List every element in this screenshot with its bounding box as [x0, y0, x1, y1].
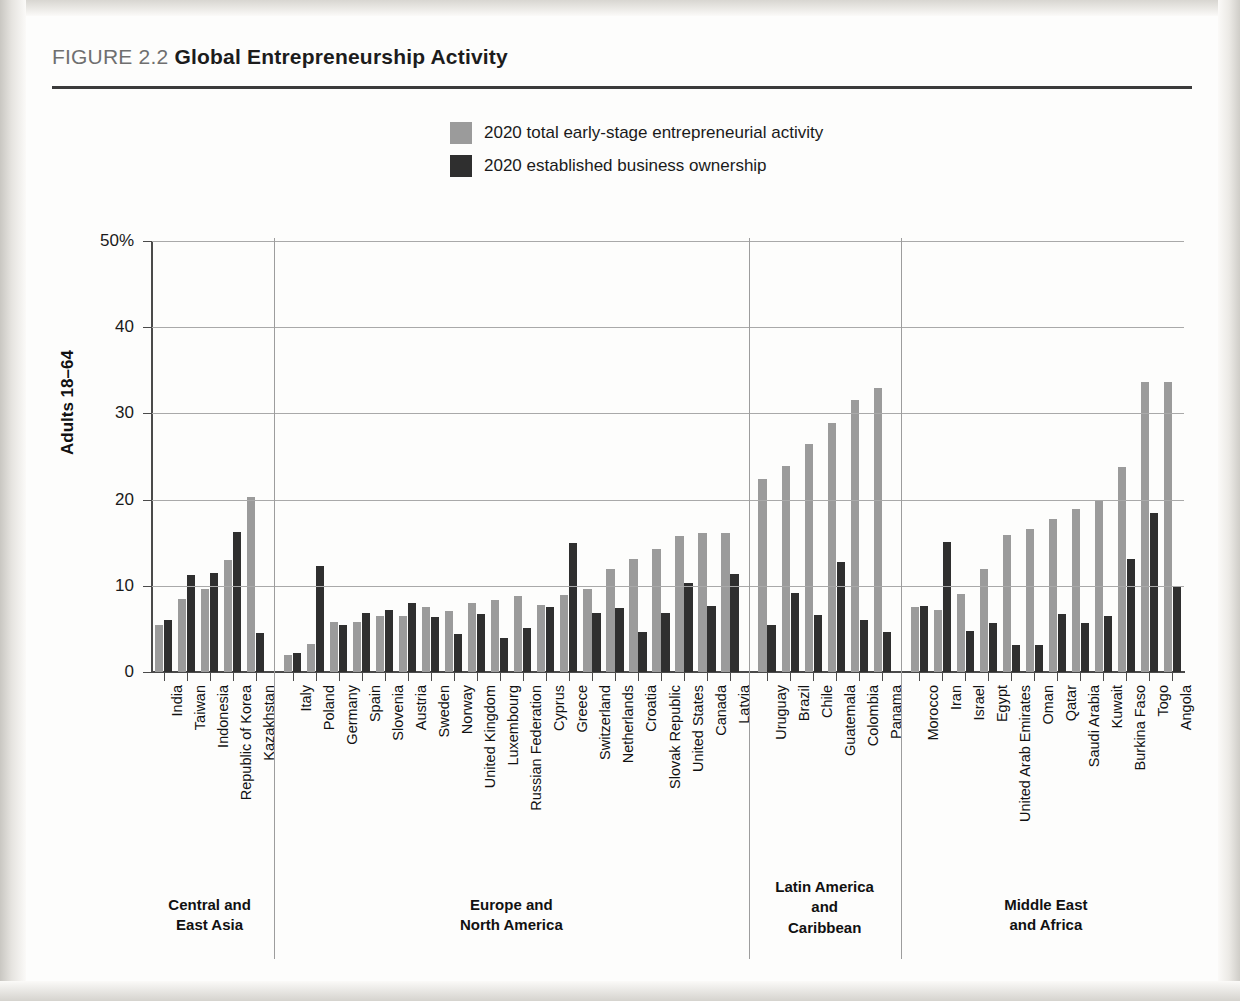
bar-tea-switzerland — [583, 589, 591, 672]
x-axis-label-austria: Austria — [413, 685, 429, 885]
x-axis-label-israel: Israel — [971, 685, 987, 885]
bar-tea-united-arab-emirates — [1003, 535, 1011, 672]
bar-ebo-greece — [569, 543, 577, 672]
x-tick-mark — [859, 672, 860, 681]
bar-ebo-republic-of-korea — [233, 532, 241, 672]
x-tick-mark — [362, 672, 363, 681]
bar-ebo-iran — [943, 542, 951, 672]
x-tick-mark — [730, 672, 731, 681]
bar-ebo-indonesia — [210, 573, 218, 672]
x-tick-mark — [454, 672, 455, 681]
bar-ebo-burkina-faso — [1127, 559, 1135, 672]
bar-tea-saudi-arabia — [1072, 509, 1080, 672]
x-axis-label-germany: Germany — [344, 685, 360, 885]
x-axis-label-qatar: Qatar — [1063, 685, 1079, 885]
x-tick-mark — [661, 672, 662, 681]
x-tick-mark — [1126, 672, 1127, 681]
bar-tea-poland — [307, 644, 315, 672]
x-axis-label-croatia: Croatia — [643, 685, 659, 885]
x-axis-label-indonesia: Indonesia — [215, 685, 231, 885]
y-tick-label-10: 10 — [74, 576, 134, 596]
bar-tea-italy — [284, 655, 292, 672]
x-tick-mark — [1103, 672, 1104, 681]
x-axis-label-spain: Spain — [367, 685, 383, 885]
x-tick-mark — [316, 672, 317, 681]
bar-ebo-saudi-arabia — [1081, 623, 1089, 672]
bar-series-container — [152, 241, 1184, 672]
bar-ebo-uruguay — [767, 625, 775, 672]
region-caption-line: North America — [269, 915, 753, 935]
x-tick-mark — [965, 672, 966, 681]
x-axis-label-brazil: Brazil — [796, 685, 812, 885]
x-axis-label-guatemala: Guatemala — [842, 685, 858, 885]
page-edge-top — [0, 0, 1240, 16]
x-tick-mark — [942, 672, 943, 681]
bar-ebo-russian-federation — [523, 628, 531, 672]
x-axis-label-angola: Angola — [1178, 685, 1194, 885]
x-axis-label-iran: Iran — [948, 685, 964, 885]
bar-tea-angola — [1164, 382, 1172, 672]
x-axis-label-greece: Greece — [574, 685, 590, 885]
legend-swatch-tea — [450, 122, 472, 144]
x-tick-mark — [882, 672, 883, 681]
bar-ebo-brazil — [791, 593, 799, 672]
region-separator — [901, 238, 902, 959]
bar-ebo-chile — [814, 615, 822, 672]
bar-tea-sweden — [422, 607, 430, 672]
bar-ebo-latvia — [730, 574, 738, 672]
gridline-40 — [152, 327, 1184, 328]
x-tick-mark — [615, 672, 616, 681]
bar-tea-luxembourg — [491, 600, 499, 672]
x-axis-label-egypt: Egypt — [994, 685, 1010, 885]
bar-ebo-switzerland — [592, 613, 600, 672]
bar-ebo-austria — [408, 603, 416, 672]
bar-ebo-qatar — [1058, 614, 1066, 672]
x-tick-mark — [1011, 672, 1012, 681]
x-tick-mark — [210, 672, 211, 681]
bar-tea-greece — [560, 595, 568, 672]
region-caption-line: Middle East — [896, 895, 1196, 915]
bar-ebo-netherlands — [615, 608, 623, 672]
x-tick-mark — [431, 672, 432, 681]
x-axis-label-cyprus: Cyprus — [551, 685, 567, 885]
x-tick-mark — [1057, 672, 1058, 681]
gridline-30 — [152, 413, 1184, 414]
page-edge-left — [0, 0, 26, 1001]
bar-tea-norway — [445, 611, 453, 672]
gridline-20 — [152, 500, 1184, 501]
figure-page: FIGURE 2.2 Global Entrepreneurship Activ… — [0, 0, 1240, 1001]
bar-ebo-morocco — [920, 606, 928, 672]
bar-ebo-slovak-republic — [661, 613, 669, 672]
y-tick-mark-30 — [143, 413, 152, 414]
x-tick-mark — [293, 672, 294, 681]
x-tick-mark — [569, 672, 570, 681]
x-tick-mark — [187, 672, 188, 681]
region-separator — [749, 238, 750, 959]
bar-tea-united-states — [675, 536, 683, 672]
x-tick-mark — [767, 672, 768, 681]
bar-tea-burkina-faso — [1118, 467, 1126, 672]
x-tick-mark — [233, 672, 234, 681]
y-tick-mark-0 — [143, 672, 152, 673]
gridline-50 — [152, 241, 1184, 242]
region-caption-line: Central and — [140, 895, 279, 915]
bar-tea-slovenia — [376, 616, 384, 672]
bar-tea-taiwan — [178, 599, 186, 672]
x-axis-label-burkina-faso: Burkina Faso — [1132, 685, 1148, 885]
bar-ebo-egypt — [989, 623, 997, 672]
x-tick-mark — [638, 672, 639, 681]
x-tick-mark — [1080, 672, 1081, 681]
x-tick-mark — [988, 672, 989, 681]
bar-ebo-united-states — [684, 583, 692, 672]
bar-ebo-croatia — [638, 632, 646, 673]
region-caption-0: Central andEast Asia — [140, 895, 279, 936]
bar-ebo-united-arab-emirates — [1012, 645, 1020, 672]
bar-tea-uruguay — [758, 479, 766, 672]
bar-tea-panama — [874, 388, 882, 672]
page-edge-bottom — [0, 981, 1240, 1001]
bar-ebo-angola — [1173, 587, 1181, 672]
bar-tea-canada — [698, 533, 706, 672]
region-caption-line: Europe and — [269, 895, 753, 915]
bar-ebo-colombia — [860, 620, 868, 672]
x-axis-label-poland: Poland — [321, 685, 337, 885]
